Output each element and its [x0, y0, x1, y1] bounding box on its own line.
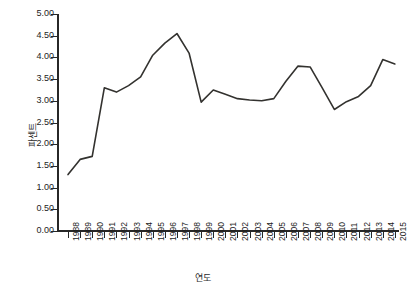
y-tick-mark	[51, 14, 57, 15]
x-tick-mark	[153, 232, 154, 238]
y-tick-mark	[51, 144, 57, 145]
x-tick-mark	[201, 232, 202, 238]
x-tick-mark	[189, 232, 190, 238]
y-tick-label: 0.50	[18, 204, 54, 213]
x-tick-mark	[359, 232, 360, 238]
y-tick-mark	[51, 188, 57, 189]
y-tick-label: 0.00	[18, 226, 54, 235]
x-tick-mark	[371, 232, 372, 238]
x-tick-mark	[383, 232, 384, 238]
y-tick-label: 2.50	[18, 118, 54, 127]
y-tick-mark	[51, 57, 57, 58]
x-tick-mark	[334, 232, 335, 238]
x-tick-mark	[237, 232, 238, 238]
x-tick-mark	[141, 232, 142, 238]
y-tick-mark	[51, 79, 57, 80]
x-tick-mark	[104, 232, 105, 238]
x-tick-mark	[177, 232, 178, 238]
x-tick-mark	[92, 232, 93, 238]
x-tick-mark	[116, 232, 117, 238]
x-tick-mark	[68, 232, 69, 238]
y-tick-label: 5.00	[18, 9, 54, 18]
y-tick-mark	[51, 123, 57, 124]
x-tick-mark	[310, 232, 311, 238]
x-tick-mark	[274, 232, 275, 238]
x-tick-mark	[262, 232, 263, 238]
x-tick-label: 2015	[399, 201, 408, 241]
x-tick-mark	[225, 232, 226, 238]
y-tick-label: 1.50	[18, 161, 54, 170]
y-tick-label: 2.00	[18, 139, 54, 148]
y-tick-label: 4.50	[18, 31, 54, 40]
x-tick-mark	[165, 232, 166, 238]
y-tick-mark	[51, 231, 57, 232]
y-tick-mark	[51, 36, 57, 37]
x-axis-title: 연도	[0, 271, 406, 284]
y-tick-mark	[51, 101, 57, 102]
x-tick-mark	[346, 232, 347, 238]
y-tick-label: 1.00	[18, 183, 54, 192]
y-tick-label: 4.00	[18, 52, 54, 61]
x-tick-mark	[213, 232, 214, 238]
x-tick-mark	[250, 232, 251, 238]
x-tick-mark	[129, 232, 130, 238]
y-axis-tick-labels: 0.000.501.001.502.002.503.003.504.004.50…	[18, 0, 54, 289]
x-tick-mark	[395, 232, 396, 238]
y-tick-mark	[51, 209, 57, 210]
x-tick-mark	[322, 232, 323, 238]
y-tick-mark	[51, 166, 57, 167]
data-series-line	[57, 14, 399, 231]
x-tick-mark	[80, 232, 81, 238]
y-tick-label: 3.50	[18, 74, 54, 83]
x-tick-mark	[286, 232, 287, 238]
x-tick-mark	[298, 232, 299, 238]
y-tick-label: 3.00	[18, 96, 54, 105]
